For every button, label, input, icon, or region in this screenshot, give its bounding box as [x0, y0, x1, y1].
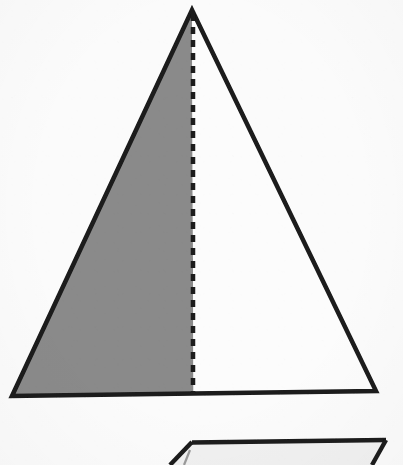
second-figure-top-edge — [192, 440, 386, 443]
geometry-figure-canvas — [0, 0, 403, 465]
second-figure-fill — [172, 442, 386, 465]
figure-page — [0, 0, 403, 465]
second-figure-partial-group — [170, 440, 386, 465]
